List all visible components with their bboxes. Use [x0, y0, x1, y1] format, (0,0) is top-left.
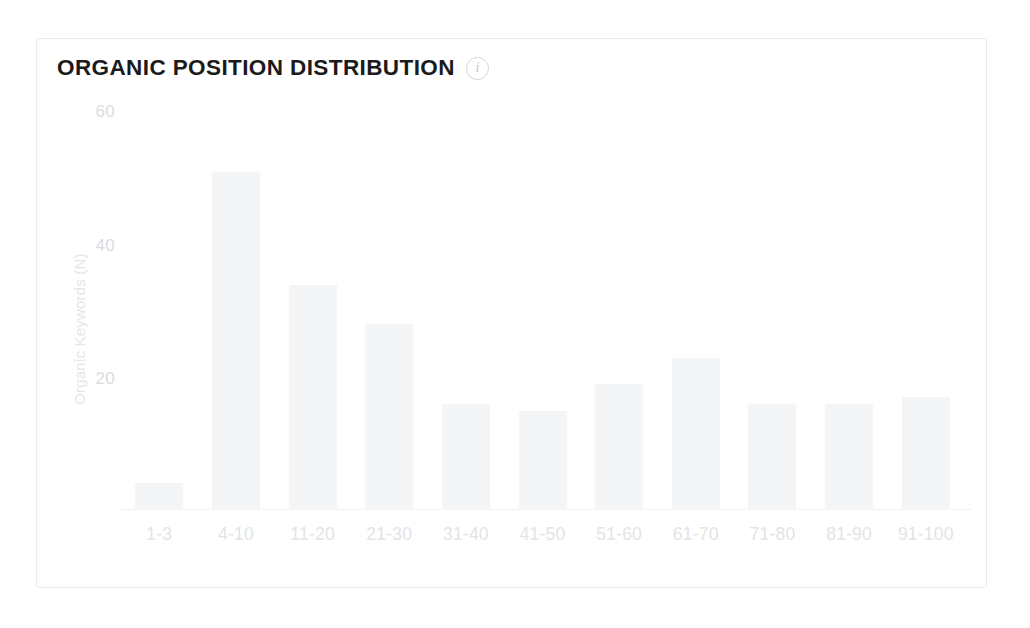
bar-21-30[interactable]: [365, 324, 413, 510]
x-axis-tick-91-100: 91-100: [887, 524, 964, 545]
bar-91-100[interactable]: [902, 397, 950, 510]
screenshot-root: ORGANIC POSITION DISTRIBUTION i Organic …: [0, 0, 1030, 628]
y-axis-tick-60: 60: [55, 102, 115, 122]
bar-cell: [734, 99, 811, 510]
x-axis-tick-4-10: 4-10: [198, 524, 275, 545]
bar-11-20[interactable]: [289, 285, 337, 510]
bar-51-60[interactable]: [595, 384, 643, 510]
bar-cell: [351, 99, 428, 510]
bar-cell: [657, 99, 734, 510]
bar-cell: [887, 99, 964, 510]
x-axis-tick-81-90: 81-90: [811, 524, 888, 545]
bar-cell: [811, 99, 888, 510]
chart-plot-area: Organic Keywords (N) 204060 1-34-1011-20…: [37, 39, 986, 587]
bar-81-90[interactable]: [825, 404, 873, 510]
bar-1-3[interactable]: [135, 483, 183, 510]
x-axis-tick-71-80: 71-80: [734, 524, 811, 545]
x-axis-tick-31-40: 31-40: [428, 524, 505, 545]
bar-61-70[interactable]: [672, 358, 720, 510]
y-axis-tick-40: 40: [55, 236, 115, 256]
bars-row: [121, 99, 964, 510]
bar-cell: [581, 99, 658, 510]
x-axis-tick-11-20: 11-20: [274, 524, 351, 545]
bar-71-80[interactable]: [748, 404, 796, 510]
x-axis-tick-41-50: 41-50: [504, 524, 581, 545]
bar-4-10[interactable]: [212, 172, 260, 510]
bar-cell: [428, 99, 505, 510]
bar-cell: [274, 99, 351, 510]
y-axis-tick-20: 20: [55, 369, 115, 389]
bar-cell: [121, 99, 198, 510]
bars-area: [121, 99, 964, 510]
x-axis-tick-51-60: 51-60: [581, 524, 658, 545]
x-axis-tick-labels: 1-34-1011-2021-3031-4041-5051-6061-7071-…: [121, 521, 964, 547]
bar-41-50[interactable]: [519, 411, 567, 510]
x-axis-tick-61-70: 61-70: [657, 524, 734, 545]
bar-31-40[interactable]: [442, 404, 490, 510]
x-axis-tick-21-30: 21-30: [351, 524, 428, 545]
bar-cell: [504, 99, 581, 510]
organic-position-distribution-card: ORGANIC POSITION DISTRIBUTION i Organic …: [36, 38, 987, 588]
bar-cell: [198, 99, 275, 510]
x-axis-tick-1-3: 1-3: [121, 524, 198, 545]
